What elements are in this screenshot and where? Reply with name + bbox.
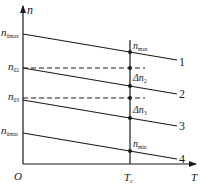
dot-n02-ref [128, 66, 132, 70]
dot-n03-ref [128, 96, 132, 100]
label-n0max: n0max [1, 26, 19, 39]
line-3 [23, 100, 177, 126]
dot-line2 [128, 84, 132, 88]
label-n02: n02 [8, 60, 19, 73]
label-n03: n03 [8, 90, 19, 103]
label-delta-n2: Δn2 [132, 72, 147, 84]
line-2-label: 2 [179, 87, 185, 101]
line-2 [23, 68, 177, 94]
origin-label: O [14, 170, 22, 182]
label-n0min: n0min [1, 124, 18, 137]
dot-line3 [128, 116, 132, 120]
line-4-label: 4 [179, 152, 185, 166]
dot-nmax [128, 50, 132, 54]
y-axis-label: n [27, 3, 33, 17]
line-3-label: 3 [179, 119, 185, 133]
label-nmax: nmax [133, 40, 148, 52]
line-1-label: 1 [179, 55, 185, 69]
x-axis-label: T [191, 171, 198, 183]
tc-label: Tc [124, 171, 133, 184]
line-1 [23, 34, 177, 60]
line-4 [23, 133, 177, 159]
label-nmin: nmin [133, 138, 147, 150]
label-delta-n3: Δn3 [132, 104, 147, 116]
n-vs-T-diagram: n T O Tc n0max n02 n03 n0min nmax Δn2 Δn… [0, 0, 208, 188]
dot-nmin [128, 149, 132, 153]
